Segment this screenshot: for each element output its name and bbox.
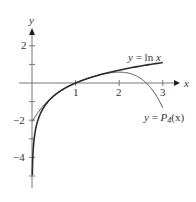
y-axis-label: y bbox=[28, 14, 34, 26]
y-tick-label-2: 2 bbox=[21, 39, 27, 51]
y-axis-arrow-icon bbox=[29, 28, 35, 35]
x-tick-label-2: 2 bbox=[116, 86, 122, 98]
x-tick-label-1: 1 bbox=[73, 86, 79, 98]
ln-curve-label: y = ln x bbox=[127, 51, 161, 63]
p4-curve-label: y = P4(x) bbox=[143, 111, 185, 125]
x-axis-label: x bbox=[183, 77, 189, 89]
chart: x y 1 2 3 2 −2 −4 y = ln x y = P4(x) bbox=[0, 0, 196, 202]
x-tick-label-3: 3 bbox=[160, 86, 166, 98]
y-tick-label-neg2: −2 bbox=[13, 114, 25, 126]
y-tick-label-neg4: −4 bbox=[13, 151, 25, 163]
x-axis-arrow-icon bbox=[174, 80, 180, 86]
